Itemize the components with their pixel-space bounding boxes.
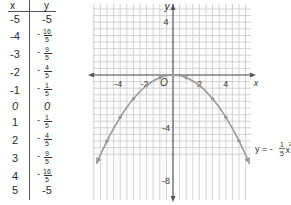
y-tick-label: -4 [162,123,170,133]
y-axis-down-arrow-icon [171,196,176,202]
equation-exponent: 2 [289,141,291,147]
origin-label: O [160,77,168,88]
data-point [237,139,241,143]
data-point [158,76,162,80]
data-point [184,76,188,80]
equation-numerator: 1 [280,141,284,148]
data-point [211,97,215,101]
y-tick-label: -8 [162,176,170,186]
x-tick-label: -4 [114,79,122,89]
x-axis-label: x [253,78,259,88]
data-point [118,115,122,119]
equation-denominator: 5 [280,150,284,157]
equation-lhs: y = - [255,144,273,154]
data-point [171,73,175,77]
data-point [198,84,202,88]
y-axis-label: y [164,1,171,12]
data-point [145,84,149,88]
data-point [132,97,136,101]
x-axis-left-arrow-icon [88,73,94,78]
y-axis-up-arrow-icon [171,4,176,10]
data-point [105,139,109,143]
data-point [224,115,228,119]
y-tick-label: 4 [163,17,168,27]
x-tick-label: 4 [223,79,228,89]
x-axis-right-arrow-icon [250,73,256,78]
parabola-graph: yxO-4-2244-4-8y = -15x2 [0,0,291,205]
